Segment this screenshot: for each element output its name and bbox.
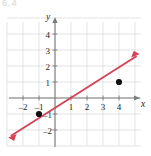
y-tick-label: –2 (42, 126, 52, 136)
data-point (36, 111, 42, 117)
x-tick-labels: –2 –1 1 2 3 4 (18, 102, 122, 112)
x-tick-label: 1 (69, 102, 74, 112)
coordinate-plane-figure: 6.4 (0, 0, 151, 156)
y-tick-labels: 4 3 2 1 –1 –2 (42, 30, 52, 136)
y-axis-label: y (45, 12, 51, 22)
axis-arrowheads (52, 17, 140, 101)
x-tick-label: –1 (34, 102, 44, 112)
plotted-line (8, 51, 139, 141)
y-tick-label: 3 (46, 46, 51, 56)
x-tick-label: 4 (117, 102, 122, 112)
x-tick-label: 2 (85, 102, 90, 112)
graph-svg: –2 –1 1 2 3 4 4 3 2 1 –1 –2 x y (0, 0, 151, 156)
y-tick-label: 4 (46, 30, 51, 40)
x-axis-label: x (140, 99, 146, 109)
y-tick-label: 1 (46, 78, 51, 88)
data-point (116, 79, 122, 85)
x-axis-arrow (134, 95, 140, 100)
figure-header-label: 6.4 (2, 0, 18, 8)
x-tick-label: 3 (101, 102, 106, 112)
x-tick-label: –2 (18, 102, 28, 112)
y-tick-label: 2 (46, 62, 51, 72)
